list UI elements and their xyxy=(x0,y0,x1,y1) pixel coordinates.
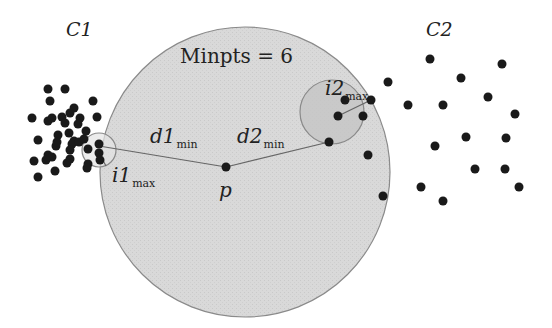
data-point xyxy=(334,112,343,121)
data-point xyxy=(471,165,480,174)
data-point xyxy=(61,85,70,94)
d2-main: d2 xyxy=(237,124,263,148)
data-point xyxy=(439,101,448,110)
data-point xyxy=(325,138,334,147)
data-point xyxy=(462,133,471,142)
i2-sub: max xyxy=(345,90,368,103)
data-point xyxy=(515,183,524,192)
i1-max-label: i1max xyxy=(112,163,155,187)
p-label: p xyxy=(219,178,232,202)
data-point xyxy=(417,183,426,192)
data-point xyxy=(96,156,105,165)
data-point xyxy=(63,159,72,168)
i1-sub: max xyxy=(132,177,155,190)
point-p xyxy=(222,163,231,172)
d1-main: d1 xyxy=(150,124,176,148)
d1-min-label: d1min xyxy=(150,124,198,148)
data-point xyxy=(82,127,91,136)
data-point xyxy=(498,60,507,69)
data-point xyxy=(95,140,104,149)
data-point xyxy=(44,85,53,94)
data-point xyxy=(51,167,60,176)
data-point xyxy=(53,138,62,147)
data-point xyxy=(364,151,373,160)
data-point xyxy=(46,97,55,106)
data-point xyxy=(34,136,43,145)
data-point xyxy=(384,78,393,87)
data-point xyxy=(66,146,75,155)
data-point xyxy=(80,135,89,144)
data-point xyxy=(484,93,493,102)
i2-main: i2 xyxy=(325,76,344,100)
data-point xyxy=(48,114,57,123)
data-point xyxy=(457,74,466,83)
minpts-label: Minpts = 6 xyxy=(180,44,293,68)
data-point xyxy=(84,145,93,154)
data-point xyxy=(379,192,388,201)
data-point xyxy=(83,164,92,173)
cluster1-label: C1 xyxy=(66,18,93,40)
d2-sub: min xyxy=(264,138,285,151)
data-point xyxy=(511,110,520,119)
cluster1-points xyxy=(28,85,105,182)
i1-main: i1 xyxy=(112,163,131,187)
d2-min-label: d2min xyxy=(237,124,285,148)
i2-max-label: i2max xyxy=(325,76,368,100)
data-point xyxy=(93,113,102,122)
data-point xyxy=(404,101,413,110)
data-point xyxy=(89,97,98,106)
data-point xyxy=(65,129,74,138)
data-point xyxy=(359,112,368,121)
data-point xyxy=(74,120,83,129)
data-point xyxy=(431,142,440,151)
data-point xyxy=(30,157,39,166)
data-point xyxy=(501,165,510,174)
data-point xyxy=(61,119,70,128)
data-point xyxy=(426,55,435,64)
data-point xyxy=(66,109,75,118)
d1-sub: min xyxy=(177,138,198,151)
data-point xyxy=(42,156,51,165)
data-point xyxy=(502,134,511,143)
data-point xyxy=(28,114,37,123)
cluster2-label: C2 xyxy=(426,18,453,40)
data-point xyxy=(439,197,448,206)
data-point xyxy=(34,173,43,182)
